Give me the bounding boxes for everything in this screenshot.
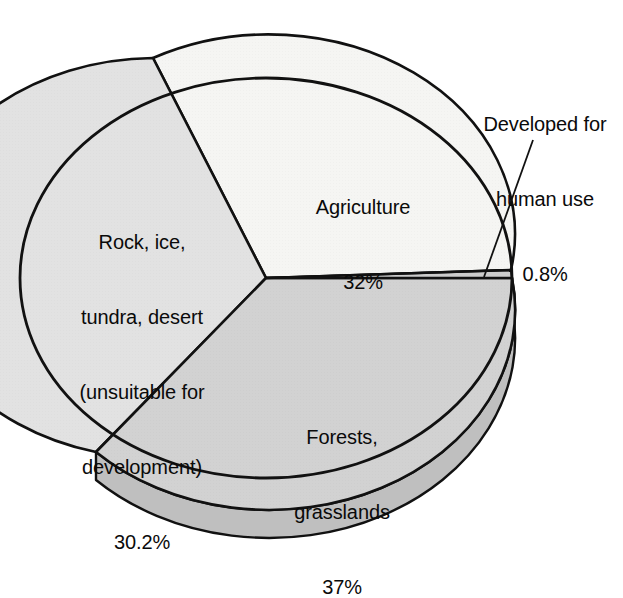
agriculture-label-line1: Agriculture [278,195,448,220]
rock-label-percent: 30.2% [42,530,242,555]
developed-label-line1: Developed for [470,112,620,137]
forests-label-line2: grasslands [252,500,432,525]
developed-label-line2: human use [470,187,620,212]
slice-label-forests: Forests, grasslands 37% [252,375,432,598]
slice-label-rock-ice: Rock, ice, tundra, desert (unsuitable fo… [42,180,242,598]
rock-label-line1: Rock, ice, [42,230,242,255]
rock-label-line4: development) [42,455,242,480]
slice-label-agriculture: Agriculture 32% [278,145,448,345]
forests-label-line1: Forests, [252,425,432,450]
developed-label-percent: 0.8% [470,262,620,287]
agriculture-label-percent: 32% [278,270,448,295]
rock-label-line2: tundra, desert [42,305,242,330]
forests-label-percent: 37% [252,575,432,598]
rock-label-line3: (unsuitable for [42,380,242,405]
slice-label-developed: Developed for human use 0.8% [470,62,620,337]
